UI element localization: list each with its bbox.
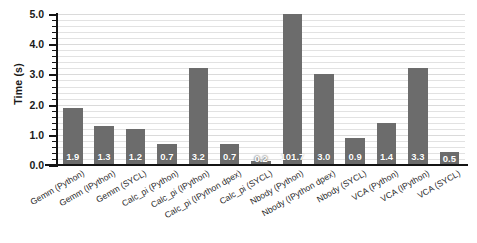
bar-value-label: 1.2 (129, 151, 142, 162)
gridline (57, 129, 465, 130)
bar: 3.3 (408, 68, 428, 165)
gridline (57, 99, 465, 100)
y-axis-major-tick (49, 135, 58, 137)
y-axis-title: Time (s) (12, 44, 24, 124)
gridline (57, 87, 465, 88)
y-axis-minor-tick (52, 123, 58, 124)
y-axis-minor-tick (52, 159, 58, 160)
bar-value-label: 0.7 (160, 151, 173, 162)
y-axis-minor-tick (52, 87, 58, 88)
y-axis-minor-tick (52, 93, 58, 94)
y-axis-minor-tick (52, 99, 58, 100)
bar: 0.7 (157, 144, 177, 165)
y-axis-minor-tick (52, 56, 58, 57)
bar: 1.4 (377, 123, 397, 165)
gridline (57, 141, 465, 142)
gridline (57, 32, 465, 33)
bar-value-label: 0.7 (223, 151, 236, 162)
gridline (57, 38, 465, 39)
y-axis-minor-tick (52, 26, 58, 27)
bar-value-label: 0.2 (254, 153, 267, 164)
bar: 1.9 (63, 108, 83, 165)
y-axis-minor-tick (52, 129, 58, 130)
gridline (57, 123, 465, 124)
bar-value-label: 3.2 (192, 151, 205, 162)
y-axis-minor-tick (52, 141, 58, 142)
y-axis-minor-tick (52, 50, 58, 51)
gridline (57, 50, 465, 51)
gridline (57, 117, 465, 118)
y-axis-major-tick (49, 14, 58, 16)
x-axis-tick-labels: Gemm (Python)Gemm (IPython)Gemm (SYCL)Ca… (0, 168, 477, 243)
bar: 3.0 (314, 74, 334, 165)
gridline (57, 111, 465, 112)
bar: 3.2 (189, 68, 209, 165)
x-axis-line (45, 164, 468, 166)
y-axis-tick-label: 1.0 (14, 129, 44, 141)
y-axis-minor-tick (52, 117, 58, 118)
plot-area: 1.91.31.20.73.20.70.2101.73.00.91.43.30.… (57, 14, 465, 165)
bar-value-label: 1.4 (380, 151, 393, 162)
gridline (57, 62, 465, 63)
y-axis-minor-tick (52, 68, 58, 69)
gridline (57, 147, 465, 148)
y-axis-tick-label: 5.0 (14, 8, 44, 20)
y-axis-minor-tick (52, 32, 58, 33)
y-axis-minor-tick (52, 153, 58, 154)
y-axis-tick-label: 2.0 (14, 99, 44, 111)
y-axis-minor-tick (52, 62, 58, 63)
y-axis-line (56, 13, 58, 166)
bar-value-label: 1.3 (97, 151, 110, 162)
gridline (57, 93, 465, 94)
bar-value-label: 1.9 (66, 151, 79, 162)
y-axis-minor-tick (52, 111, 58, 112)
bar: 0.9 (345, 138, 365, 165)
bar-value-label: 3.0 (317, 151, 330, 162)
gridline (57, 135, 465, 136)
y-axis-major-tick (49, 74, 58, 76)
gridline (57, 26, 465, 27)
gridline (57, 105, 465, 106)
gridline (57, 14, 465, 15)
y-axis-tick-label: 3.0 (14, 68, 44, 80)
bar-value-label: 0.9 (349, 151, 362, 162)
gridline (57, 74, 465, 75)
y-axis-minor-tick (52, 20, 58, 21)
bar-chart: Time (s) 0.01.02.03.04.05.0 1.91.31.20.7… (0, 0, 477, 243)
y-axis-minor-tick (52, 147, 58, 148)
y-axis-major-tick (49, 165, 58, 167)
gridline (57, 20, 465, 21)
y-axis-minor-tick (52, 80, 58, 81)
bar-value-label: 0.5 (443, 153, 456, 164)
bar-value-label: 101.7 (281, 151, 305, 162)
gridline (57, 68, 465, 69)
bar: 0.7 (220, 144, 240, 165)
gridline (57, 56, 465, 57)
bar-value-label: 3.3 (411, 151, 424, 162)
gridline (57, 80, 465, 81)
bar: 101.7 (283, 14, 303, 165)
y-axis-major-tick (49, 44, 58, 46)
gridline (57, 44, 465, 45)
y-axis-tick-label: 4.0 (14, 38, 44, 50)
y-axis-major-tick (49, 105, 58, 107)
bar: 1.2 (126, 129, 146, 165)
bar: 1.3 (94, 126, 114, 165)
y-axis-minor-tick (52, 38, 58, 39)
